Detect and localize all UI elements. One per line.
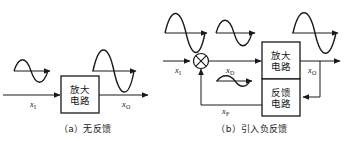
amplifier-block-outline <box>61 76 99 113</box>
signal-label-xo: xO <box>122 99 130 109</box>
feedback-block-outline <box>262 79 300 116</box>
amplifier-block-outline <box>262 42 300 79</box>
panel-a-no-feedback: 放大 电路 xI xO （a）无反馈 <box>0 0 170 141</box>
signal-subscript: I <box>179 70 181 76</box>
signal-label-xf: xF <box>222 106 229 116</box>
panel-a-lines <box>0 0 170 141</box>
signal-subscript: O <box>126 104 130 110</box>
panel-b-lines <box>160 0 344 141</box>
signal-subscript: O <box>312 70 316 76</box>
figure-negative-feedback-block-diagram: 放大 电路 xI xO （a）无反馈 <box>0 0 344 141</box>
signal-label-xo: xO <box>308 65 316 75</box>
signal-subscript: D <box>230 70 234 76</box>
signal-label-xi: xI <box>30 99 36 109</box>
signal-subscript: I <box>34 104 36 110</box>
panel-b-with-negative-feedback: 放大 电路 反馈 电路 xI xD xF xO （b）引入负反馈 <box>160 0 344 141</box>
panel-a-caption: （a）无反馈 <box>0 122 170 135</box>
signal-label-xd: xD <box>226 65 234 75</box>
signal-subscript: F <box>226 111 229 117</box>
signal-label-xi: xI <box>175 65 181 75</box>
panel-b-caption: （b）引入负反馈 <box>160 122 344 135</box>
